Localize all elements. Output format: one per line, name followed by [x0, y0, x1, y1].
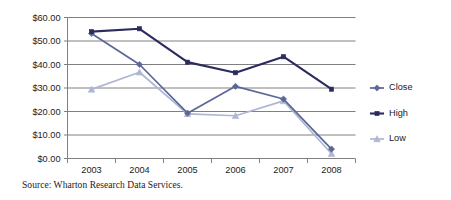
y-axis-line [64, 18, 68, 159]
series-line [92, 72, 332, 154]
legend-item-close[interactable]: Close [370, 82, 413, 92]
x-axis-tick-label: 2007 [273, 165, 293, 175]
y-axis-tick-label: $0.00 [38, 154, 61, 164]
data-point-marker [233, 71, 237, 75]
y-axis-tick-label: $50.00 [32, 36, 60, 46]
data-point-marker [374, 85, 380, 91]
y-axis-tick-label: $30.00 [32, 83, 60, 93]
data-point-marker [329, 87, 333, 91]
data-point-marker [281, 55, 285, 59]
x-axis-tick-label: 2006 [225, 165, 245, 175]
x-axis-tick-label: 2005 [177, 165, 197, 175]
series-line [92, 33, 332, 149]
chart-legend: CloseHighLow [370, 82, 413, 143]
series-high [89, 27, 333, 92]
data-point-marker [185, 60, 189, 64]
data-point-marker [375, 111, 379, 115]
series-close [88, 30, 334, 152]
x-axis-tick-label: 2008 [321, 165, 341, 175]
y-axis-tick-label: $20.00 [32, 107, 60, 117]
y-axis-tick-label: $60.00 [32, 13, 60, 23]
chart-canvas: $0.00$10.00$20.00$30.00$40.00$50.00$60.0… [0, 0, 451, 200]
x-axis-ticks [68, 159, 356, 164]
x-axis-tick-label: 2003 [81, 165, 101, 175]
legend-label: Low [389, 133, 406, 143]
y-axis-tick-labels: $0.00$10.00$20.00$30.00$40.00$50.00$60.0… [32, 13, 60, 164]
gridlines-group [68, 18, 356, 159]
x-axis-tick-labels: 200320042005200620072008 [81, 165, 341, 175]
legend-item-high[interactable]: High [370, 108, 408, 118]
legend-label: High [389, 108, 408, 118]
data-point-marker [137, 27, 141, 31]
legend-label: Close [389, 82, 413, 92]
y-axis-tick-label: $10.00 [32, 130, 60, 140]
source-note: Source: Wharton Research Data Services. [22, 180, 183, 190]
data-point-marker [136, 69, 143, 75]
legend-item-low[interactable]: Low [370, 133, 406, 143]
x-axis-tick-label: 2004 [129, 165, 149, 175]
data-series-group [88, 27, 335, 157]
data-point-marker [89, 30, 93, 34]
series-line [92, 29, 332, 89]
stock-price-line-chart: $0.00$10.00$20.00$30.00$40.00$50.00$60.0… [0, 0, 451, 200]
y-axis-tick-label: $40.00 [32, 60, 60, 70]
